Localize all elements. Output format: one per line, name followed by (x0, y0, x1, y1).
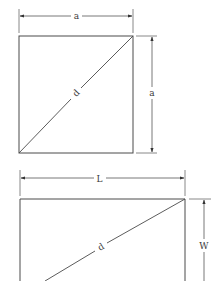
diagram-canvas: a d a L (0, 0, 216, 281)
square-top-dimension-label: a (74, 11, 80, 21)
square-right-dimension-label: a (149, 88, 155, 98)
square-diagonal-upper (81, 36, 133, 88)
rect-diagonal-upper (107, 199, 185, 243)
rectangle-figure: L d W (20, 170, 211, 281)
rect-top-dimension-label: L (97, 174, 103, 184)
rect-right-dimension-label: W (199, 241, 209, 251)
rect-diagonal-label: d (96, 241, 106, 253)
square-diagonal-label: d (70, 87, 81, 98)
square-diagonal-lower (19, 99, 71, 153)
square-figure: a d a (19, 9, 157, 153)
rect-diagonal-lower (45, 251, 95, 281)
